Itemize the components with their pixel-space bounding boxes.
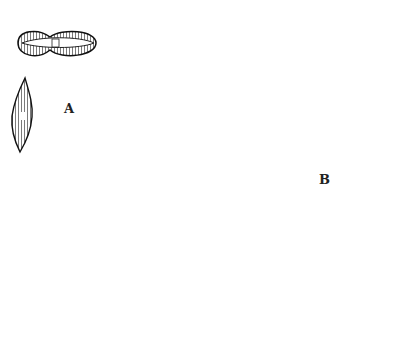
diatom-illustration: A B <box>0 0 417 337</box>
panel-label-b: B <box>319 172 330 187</box>
panel-label-a: A <box>64 101 74 116</box>
diatom-small-lanceolate <box>12 78 32 152</box>
diatom-constricted-valve <box>18 31 96 55</box>
diatom-drawings <box>0 0 417 337</box>
